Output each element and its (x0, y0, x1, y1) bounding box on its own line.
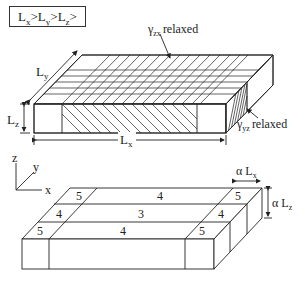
region-back-right: 5 (235, 189, 241, 203)
alpha-Lz-label: α Lz (272, 196, 293, 212)
region-mid-right: 4 (218, 207, 224, 221)
gamma-zx-label: γzxrelaxed (147, 22, 198, 38)
Ly-label: Ly (36, 64, 49, 81)
region-front-right: 5 (199, 224, 205, 238)
region-mid-center: 3 (138, 207, 144, 221)
axis-y-label: y (33, 160, 39, 174)
region-front-left: 5 (37, 224, 43, 238)
gamma-yz-label: γyzrelaxed (236, 117, 287, 133)
axis-z-label: z (12, 151, 17, 165)
alpha-Lx-label: α Lx (236, 164, 257, 180)
gamma-zx-pointer (160, 34, 170, 58)
region-back-left: 5 (76, 189, 82, 203)
region-front-mid: 4 (120, 224, 126, 238)
region-mid-left: 4 (56, 207, 62, 221)
bottom-box (22, 188, 262, 269)
region-back-mid: 4 (157, 189, 163, 203)
diagram-canvas: γzxrelaxed γyzrelaxed Ly Lz Lx z y x 5 4… (0, 0, 305, 281)
axis-x-label: x (45, 183, 51, 197)
Lz-label: Lz (7, 112, 19, 129)
